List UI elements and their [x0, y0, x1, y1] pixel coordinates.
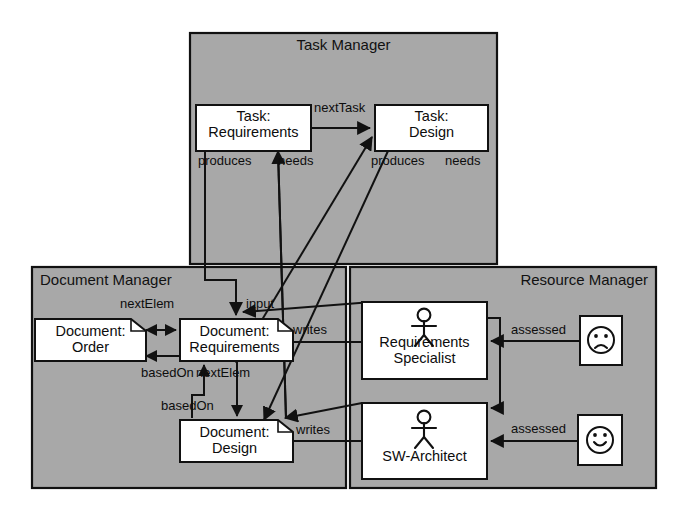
edge-label-based-on-order: basedOn	[141, 365, 194, 380]
node-sw-architect[interactable]	[362, 403, 487, 479]
edge-label-assessed-architect: assessed	[511, 421, 566, 436]
edge-label-assessed-requirements: assessed	[511, 322, 566, 337]
node-label-requirements-specialist: Requirements Specialist	[362, 334, 487, 366]
node-label-task-design: Task: Design	[375, 108, 488, 140]
edge-label-writes-requirements: writes	[293, 322, 327, 337]
edge-label-produces-requirements: produces	[198, 153, 251, 168]
node-line-1: Task:	[196, 108, 311, 124]
edge-label-next-elem-mid: nextElem	[196, 365, 250, 380]
node-line-2: Requirements	[196, 124, 311, 140]
node-line-1: Requirements	[362, 334, 487, 350]
node-label-task-requirements: Task: Requirements	[196, 108, 311, 140]
edge-label-based-on-design: basedOn	[161, 398, 214, 413]
node-line-1: Document:	[178, 323, 291, 339]
node-line-1: Task:	[375, 108, 488, 124]
node-assessment-happy[interactable]	[578, 415, 622, 465]
node-line-2: Specialist	[362, 350, 487, 366]
node-line-2: Order	[35, 339, 146, 355]
node-label-document-order: Document: Order	[35, 323, 146, 355]
node-line-2: Requirements	[178, 339, 291, 355]
node-line-1: Document:	[178, 424, 291, 440]
node-line-1: Document:	[35, 323, 146, 339]
edge-label-next-task: nextTask	[314, 100, 365, 115]
diagram-vector-layer	[0, 0, 682, 516]
panel-title-task-manager: Task Manager	[190, 36, 497, 53]
panel-title-resource-manager: Resource Manager	[350, 271, 648, 288]
diagram-canvas: Task Manager Document Manager Resource M…	[0, 0, 682, 516]
edge-label-needs-design: needs	[445, 153, 480, 168]
edge-label-writes-design: writes	[296, 422, 330, 437]
node-label-sw-architect: SW-Architect	[362, 448, 487, 464]
node-label-document-design: Document: Design	[178, 424, 291, 456]
panel-title-document-manager: Document Manager	[40, 271, 172, 288]
edge-label-needs-requirements: needs	[278, 153, 313, 168]
node-line-2: Design	[375, 124, 488, 140]
node-line-2: Design	[178, 440, 291, 456]
edge-label-input: input	[246, 296, 274, 311]
node-label-document-requirements: Document: Requirements	[178, 323, 291, 355]
node-line-1: SW-Architect	[362, 448, 487, 464]
edge-label-produces-design: produces	[371, 153, 424, 168]
edge-label-next-elem-top: nextElem	[120, 296, 174, 311]
node-assessment-sad[interactable]	[580, 316, 622, 365]
